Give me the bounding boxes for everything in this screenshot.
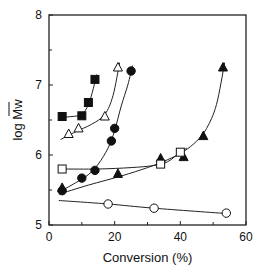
open-circles-marker xyxy=(222,209,230,217)
open-squares-marker xyxy=(157,160,165,168)
filled-triangles-marker xyxy=(199,131,208,140)
y-tick-label: 7 xyxy=(35,78,42,92)
chart-canvas: 02040605678 Conversion (%) log Mw xyxy=(0,0,262,273)
filled-triangles-marker xyxy=(58,183,67,192)
x-tick-label: 60 xyxy=(239,230,253,244)
open-squares-marker xyxy=(176,148,184,156)
x-tick-label: 40 xyxy=(174,230,188,244)
filled-squares-marker xyxy=(58,113,66,121)
open-triangles-marker xyxy=(74,123,83,131)
filled-circles-marker xyxy=(91,166,99,174)
y-axis-label-text: log Mw xyxy=(10,99,25,141)
y-tick-label: 5 xyxy=(35,218,42,232)
filled-triangles-marker xyxy=(219,63,228,72)
data-markers xyxy=(58,63,231,218)
filled-circles-marker xyxy=(78,174,86,182)
filled-squares-marker xyxy=(78,112,86,120)
filled-squares-marker xyxy=(84,99,92,107)
y-tick-label: 6 xyxy=(35,148,42,162)
y-axis-label: log Mw xyxy=(9,99,25,141)
axes: 02040605678 xyxy=(35,8,253,244)
open-triangles-marker xyxy=(113,63,122,72)
x-tick-label: 20 xyxy=(108,230,122,244)
open-circles-curve xyxy=(59,201,230,214)
open-squares-curve xyxy=(62,148,187,169)
x-axis-label: Conversion (%) xyxy=(103,250,193,265)
filled-circles-marker xyxy=(110,124,118,132)
open-triangles-marker xyxy=(100,112,109,121)
filled-circles-marker xyxy=(127,67,135,75)
filled-circles-marker xyxy=(107,137,115,145)
open-circles-marker xyxy=(150,204,158,212)
open-squares-marker xyxy=(58,165,66,173)
x-tick-label: 0 xyxy=(46,230,53,244)
open-circles-marker xyxy=(104,200,112,208)
filled-triangles-marker xyxy=(113,169,122,178)
filled-squares-marker xyxy=(91,75,99,83)
y-tick-label: 8 xyxy=(35,8,42,22)
